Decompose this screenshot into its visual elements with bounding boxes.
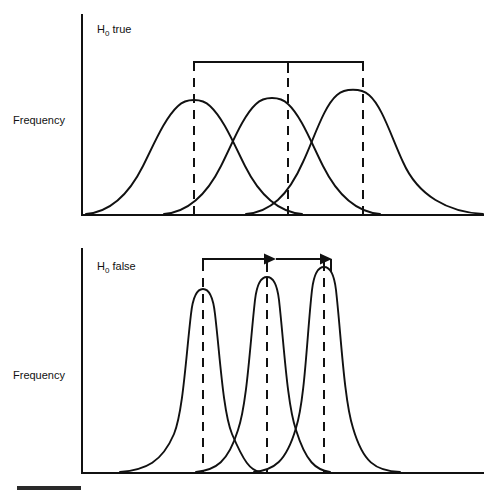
panel-bottom-condition-label: H0 false <box>97 260 136 275</box>
panel-bottom-y-axis-label: Frequency <box>13 369 65 381</box>
panel-top-condition-label: H0 true <box>97 23 131 38</box>
figure-container: H0 true Frequency H0 false <box>0 0 498 502</box>
panel-top-y-axis-label: Frequency <box>13 114 65 126</box>
panel-bottom-curve-1 <box>120 289 260 472</box>
panel-bottom-curve-3 <box>254 267 400 472</box>
panel-top-curve-2 <box>164 98 380 214</box>
panel-bottom-arrowhead-1 <box>264 254 276 265</box>
panel-bottom: H0 false Frequency <box>13 249 483 473</box>
panel-top-bracket <box>194 62 363 70</box>
panel-top-curve-3 <box>246 90 483 214</box>
panel-top: H0 true Frequency <box>13 15 483 215</box>
statistics-figure: H0 true Frequency H0 false <box>0 0 498 502</box>
panel-bottom-arrow-rail-1 <box>203 259 265 268</box>
footer-rule <box>17 486 81 490</box>
